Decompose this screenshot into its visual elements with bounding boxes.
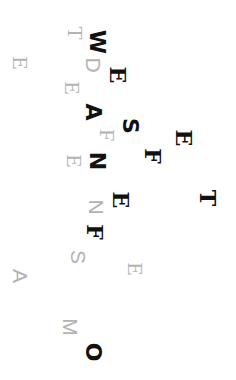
letter-m: M: [60, 318, 81, 336]
letter-a: A: [10, 269, 31, 283]
letter-t: T: [64, 26, 86, 39]
letter-s: S: [119, 118, 141, 134]
letter-a: A: [82, 103, 104, 120]
letter-w: W: [86, 30, 108, 54]
letter-e: E: [173, 130, 195, 147]
letter-e: E: [124, 262, 146, 275]
letter-e: E: [110, 192, 132, 209]
letter-n: N: [86, 152, 108, 170]
letter-e: E: [9, 56, 31, 69]
letter-n: N: [86, 199, 107, 214]
letter-d: D: [83, 57, 104, 72]
letter-e: E: [63, 154, 85, 167]
letter-f: F: [96, 129, 118, 141]
letter-f: F: [142, 148, 164, 164]
letter-f: F: [84, 224, 106, 240]
letter-e: E: [107, 67, 129, 84]
letter-o: O: [82, 343, 104, 362]
letter-t: T: [197, 190, 219, 206]
letter-e: E: [61, 81, 83, 94]
letter-s: S: [68, 250, 89, 264]
